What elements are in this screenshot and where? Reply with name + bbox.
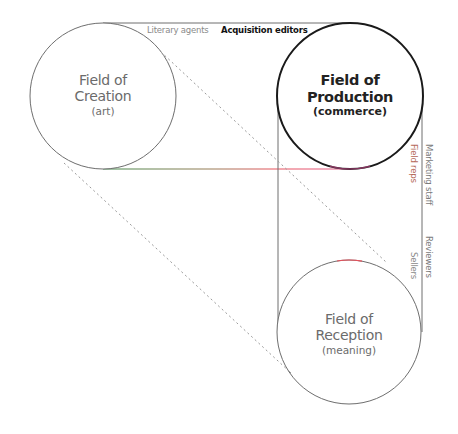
reception-title-line1: Field of [299, 311, 399, 327]
creation-label: Field of Creation (art) [53, 72, 153, 117]
field-diagram [0, 0, 458, 434]
reception-title-line2: Reception [299, 327, 399, 343]
acquisition-editors-label: Acquisition editors [221, 25, 308, 35]
literary-agents-label: Literary agents [147, 25, 209, 35]
reviewers-label: Reviewers [424, 236, 434, 278]
lower-dashed-connector [64, 163, 291, 373]
production-title-line1: Field of [295, 72, 405, 89]
production-title-line2: Production [295, 89, 405, 106]
creation-title-line1: Field of [53, 72, 153, 88]
production-label: Field of Production (commerce) [295, 72, 405, 119]
reception-subtitle: (meaning) [299, 344, 399, 356]
marketing-staff-label: Marketing staff [424, 144, 434, 205]
creation-title-line2: Creation [53, 88, 153, 104]
creation-subtitle: (art) [53, 105, 153, 117]
reception-label: Field of Reception (meaning) [299, 311, 399, 356]
sellers-label: Sellers [409, 252, 419, 279]
production-subtitle: (commerce) [295, 106, 405, 119]
field-reps-label: Field reps [409, 144, 419, 183]
